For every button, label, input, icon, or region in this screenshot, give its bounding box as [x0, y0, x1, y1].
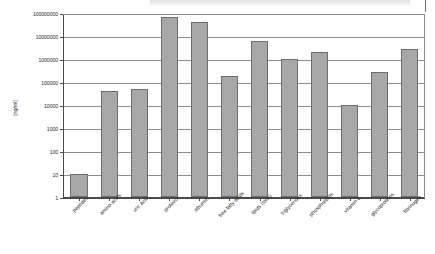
y-tick-label: 100: [50, 149, 58, 155]
bar-slot: [184, 14, 214, 197]
x-label-slot: triglycerides: [274, 199, 304, 254]
bar-slot: [94, 14, 124, 197]
bar-slot: [395, 14, 425, 197]
bar: [221, 76, 238, 197]
bar-slot: [275, 14, 305, 197]
bar-series: [64, 14, 425, 197]
y-tick-label: 100000000: [33, 11, 58, 17]
bar: [101, 91, 118, 197]
x-label-slot: vitamin E: [335, 199, 365, 254]
bar: [161, 17, 178, 197]
bar: [191, 22, 208, 197]
y-tick-label: 10000000: [36, 34, 58, 40]
x-axis-labels: peptidesamino acidsuric acidproteinsalbu…: [63, 199, 425, 254]
x-label-slot: glycoproteins: [365, 199, 395, 254]
bar-slot: [124, 14, 154, 197]
bar-slot: [214, 14, 244, 197]
x-label-slot: amino acids: [93, 199, 123, 254]
bar: [371, 72, 388, 197]
bar: [70, 174, 87, 197]
bar: [251, 41, 268, 197]
bar-slot: [335, 14, 365, 197]
x-label-slot: lipids (total): [244, 199, 274, 254]
x-label-slot: free fatty acids: [214, 199, 244, 254]
bar: [131, 89, 148, 197]
bar: [281, 59, 298, 197]
bar-slot: [64, 14, 94, 197]
x-label-slot: albumin: [184, 199, 214, 254]
x-label-slot: phospholipids: [304, 199, 334, 254]
bar: [311, 52, 328, 197]
x-axis-category-label: proteins: [162, 195, 179, 212]
x-label-slot: uric acid: [123, 199, 153, 254]
bar-slot: [244, 14, 274, 197]
y-tick-label: 10: [52, 172, 58, 178]
x-label-slot: peptides: [63, 199, 93, 254]
bar: [401, 49, 418, 197]
bar-slot: [154, 14, 184, 197]
y-tick-label: 10000: [44, 103, 58, 109]
x-label-slot: fibrinogen: [395, 199, 425, 254]
y-tick-label: 1000000: [39, 57, 59, 63]
plot-area: 1000000001000000010000001000001000010001…: [63, 14, 425, 198]
y-axis-title: [ng/ml]: [12, 100, 18, 116]
x-axis-category-label: albumin: [192, 196, 209, 213]
bar-slot: [305, 14, 335, 197]
bar-slot: [365, 14, 395, 197]
y-tick-label: 1000: [47, 126, 58, 132]
bar: [341, 105, 358, 197]
y-tick-label: 1: [55, 195, 58, 201]
y-tick-label: 100000: [41, 80, 58, 86]
bar-chart: [ng/ml] 10000000010000000100000010000010…: [0, 0, 435, 254]
x-label-slot: proteins: [154, 199, 184, 254]
